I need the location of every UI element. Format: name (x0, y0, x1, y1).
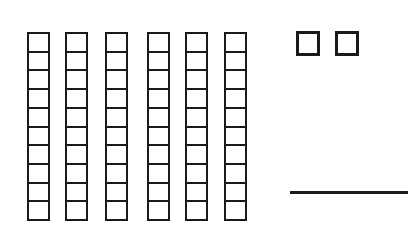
rod-cell (149, 128, 168, 147)
rod-cell (67, 146, 86, 165)
rod-cell (226, 90, 245, 109)
rod-cell (187, 128, 206, 147)
rod-cell (187, 71, 206, 90)
rod-cell (29, 34, 48, 53)
rod-cell (187, 34, 206, 53)
rod-cell (107, 71, 126, 90)
rod-cell (67, 90, 86, 109)
rod-cell (187, 165, 206, 184)
unit-cube (335, 31, 359, 56)
ten-rod (185, 32, 208, 221)
rod-cell (149, 146, 168, 165)
rod-cell (29, 90, 48, 109)
rod-cell (107, 53, 126, 72)
rod-cell (187, 53, 206, 72)
rod-cell (67, 71, 86, 90)
rod-cell (29, 202, 48, 219)
rod-cell (67, 165, 86, 184)
rod-cell (226, 34, 245, 53)
rod-cell (107, 109, 126, 128)
rod-cell (226, 146, 245, 165)
rod-cell (107, 202, 126, 219)
rod-cell (67, 184, 86, 203)
unit-cube (296, 31, 320, 56)
rod-cell (226, 128, 245, 147)
rod-cell (226, 53, 245, 72)
rod-cell (107, 184, 126, 203)
ten-rod (147, 32, 170, 221)
ten-rod (65, 32, 88, 221)
rod-cell (149, 165, 168, 184)
rod-cell (187, 109, 206, 128)
rod-cell (149, 53, 168, 72)
rod-cell (29, 146, 48, 165)
rod-cell (226, 165, 245, 184)
rod-cell (187, 184, 206, 203)
rod-cell (67, 34, 86, 53)
rod-cell (67, 53, 86, 72)
rod-cell (29, 71, 48, 90)
rod-cell (29, 128, 48, 147)
rod-cell (149, 109, 168, 128)
rod-cell (107, 146, 126, 165)
rod-cell (149, 184, 168, 203)
rod-cell (29, 53, 48, 72)
rod-cell (67, 109, 86, 128)
rod-cell (67, 128, 86, 147)
rod-cell (226, 202, 245, 219)
rod-cell (29, 165, 48, 184)
rod-cell (187, 90, 206, 109)
rod-cell (107, 165, 126, 184)
rod-cell (187, 146, 206, 165)
rod-cell (226, 71, 245, 90)
rod-cell (29, 184, 48, 203)
rod-cell (29, 109, 48, 128)
rod-cell (226, 184, 245, 203)
rod-cell (107, 34, 126, 53)
rod-cell (149, 71, 168, 90)
rod-cell (226, 109, 245, 128)
rod-cell (149, 90, 168, 109)
rod-cell (149, 202, 168, 219)
rod-cell (107, 90, 126, 109)
ten-rod (105, 32, 128, 221)
rod-cell (67, 202, 86, 219)
rod-cell (149, 34, 168, 53)
ten-rod (224, 32, 247, 221)
rod-cell (107, 128, 126, 147)
ten-rod (27, 32, 50, 221)
rod-cell (187, 202, 206, 219)
answer-line (290, 191, 408, 194)
